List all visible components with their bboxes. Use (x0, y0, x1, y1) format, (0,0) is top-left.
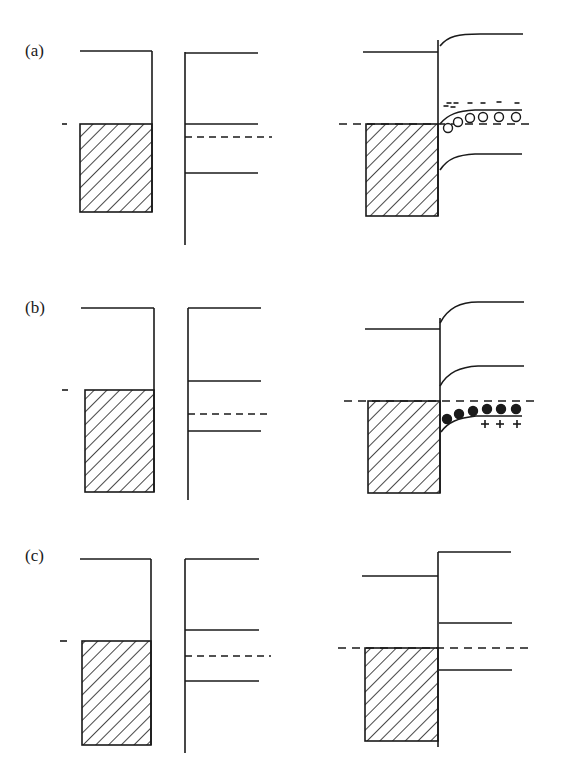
metal-filled-states (366, 124, 438, 216)
electron-dot-icon (512, 405, 521, 414)
panel-label-a: (a) (25, 41, 44, 61)
metal-filled-states (80, 124, 152, 212)
contact-diagram (344, 302, 535, 493)
hole-circle-icon (495, 113, 504, 122)
separated-diagram (62, 308, 272, 500)
valence-band-bent (440, 154, 522, 170)
hole-circle-icon (466, 114, 475, 123)
electron-dot-icon (483, 405, 492, 414)
vacuum-level-bent (440, 302, 524, 323)
metal-filled-states (365, 648, 438, 741)
electron-dot-icon (497, 405, 506, 414)
electron-dot-icon (455, 410, 464, 419)
band-diagram-figure (0, 0, 564, 776)
panel-b (62, 302, 535, 500)
conduction-band-bent (440, 366, 524, 386)
panel-a (62, 34, 533, 245)
vacuum-level-bent (440, 34, 523, 46)
hole-circle-icon (479, 113, 488, 122)
contact-diagram (339, 34, 533, 216)
metal-filled-states (82, 641, 151, 745)
separated-diagram (60, 559, 271, 753)
hole-circle-icon (512, 113, 521, 122)
panel-label-c: (c) (25, 546, 44, 566)
panel-c (60, 552, 530, 753)
metal-filled-states (85, 390, 154, 492)
panel-label-b: (b) (25, 298, 45, 318)
electron-dot-icon (469, 407, 478, 416)
contact-diagram (338, 552, 530, 747)
separated-diagram (62, 51, 272, 245)
hole-circle-icon (444, 124, 453, 133)
electron-dot-icon (443, 415, 452, 424)
metal-filled-states (368, 401, 440, 493)
hole-circle-icon (454, 118, 463, 127)
